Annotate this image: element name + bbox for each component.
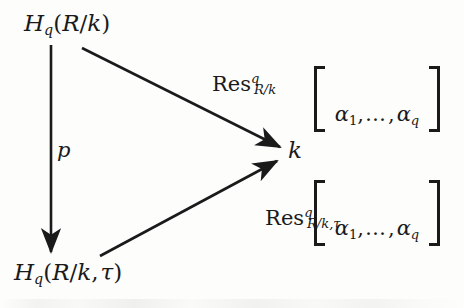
alpha-last: α xyxy=(395,216,411,240)
node-base-symbol: H xyxy=(24,10,44,36)
bracket-group-top: α1,…,αq xyxy=(314,66,440,132)
arrow-res-bottom xyxy=(100,161,277,256)
close-paren: ) xyxy=(113,259,122,285)
open-paren: ( xyxy=(53,10,62,36)
open-paren: ( xyxy=(43,259,52,285)
node-arg-k: k xyxy=(77,259,91,285)
node-arg-k: k xyxy=(87,10,101,36)
alpha-first: α xyxy=(335,216,349,240)
node-base-symbol: H xyxy=(14,259,34,285)
node-h-q-r-mod-k: Hq(R/k) xyxy=(24,12,110,38)
res-operator: Res xyxy=(265,206,304,230)
ellipsis: … xyxy=(364,102,388,126)
arrow-label-p: p xyxy=(57,140,70,161)
node-k: k xyxy=(288,139,302,162)
comma-1: , xyxy=(357,216,364,240)
alpha-first: α xyxy=(335,102,349,126)
left-square-bracket-icon xyxy=(314,180,327,246)
node-arg-tau: τ xyxy=(99,259,114,285)
alpha-list-top: α1,…,αq xyxy=(329,104,425,132)
comma-2: , xyxy=(388,216,395,240)
res-subscript-r: R xyxy=(254,82,264,97)
ellipsis: … xyxy=(364,216,388,240)
node-arg-r: R xyxy=(52,259,69,285)
right-square-bracket-icon xyxy=(427,180,440,246)
left-square-bracket-icon xyxy=(314,66,327,132)
node-subscript: q xyxy=(34,271,43,287)
node-h-q-r-mod-k-tau: Hq(R/k,τ) xyxy=(14,261,122,287)
alpha-last-subscript: q xyxy=(411,227,419,242)
right-square-bracket-icon xyxy=(427,66,440,132)
res-operator: Res xyxy=(212,72,251,96)
comma: , xyxy=(91,259,98,285)
arrow-res-top xyxy=(82,48,280,147)
node-subscript: q xyxy=(44,22,53,38)
alpha-list-bottom: α1,…,αq xyxy=(329,218,425,246)
comma-1: , xyxy=(357,102,364,126)
close-paren: ) xyxy=(101,10,110,36)
arrow-label-res-top: ResqR/k xyxy=(212,72,276,96)
commutative-diagram: Hq(R/k) Hq(R/k,τ) k p ResqR/k ResqR/k,τ … xyxy=(0,0,464,308)
alpha-last-subscript: q xyxy=(411,113,419,128)
res-subscript-k: k xyxy=(268,82,276,97)
bracket-group-bottom: α1,…,αq xyxy=(314,180,440,246)
alpha-last: α xyxy=(395,102,411,126)
node-arg-r: R xyxy=(62,10,79,36)
comma-2: , xyxy=(388,102,395,126)
